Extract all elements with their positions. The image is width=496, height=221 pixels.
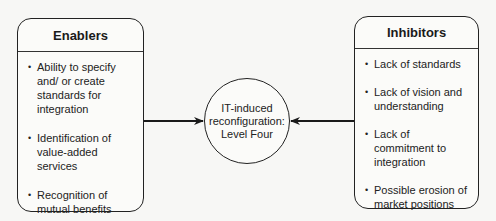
inhibitors-title: Inhibitors	[355, 17, 478, 49]
enabler-item: Identification of value-added services	[28, 131, 137, 173]
center-node: IT-induced reconfiguration: Level Four	[204, 78, 290, 164]
center-line: IT-induced	[209, 102, 285, 115]
enablers-list: Ability to specify and/ or create standa…	[18, 52, 143, 216]
enabler-item: Recognition of mutual benefits	[28, 188, 137, 216]
center-label: IT-induced reconfiguration: Level Four	[209, 102, 285, 141]
inhibitors-list: Lack of standards Lack of vision and und…	[355, 49, 478, 211]
inhibitor-item: Lack of vision and understanding	[365, 85, 472, 113]
inhibitor-item: Lack of commitment to integration	[365, 127, 472, 169]
enablers-title: Enablers	[18, 19, 143, 52]
inhibitors-box: Inhibitors Lack of standards Lack of vis…	[354, 16, 479, 209]
enablers-box: Enablers Ability to specify and/ or crea…	[17, 18, 144, 212]
inhibitor-item: Possible erosion of market positions	[365, 183, 472, 211]
inhibitor-item: Lack of standards	[365, 57, 472, 71]
center-line: reconfiguration:	[209, 115, 285, 128]
enabler-item: Ability to specify and/ or create standa…	[28, 60, 137, 116]
center-line: Level Four	[209, 128, 285, 141]
